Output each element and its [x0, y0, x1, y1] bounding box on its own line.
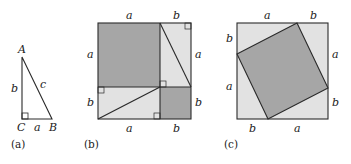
right-angle-marker — [22, 113, 28, 119]
caption-b: (b) — [84, 138, 99, 150]
side-b-label: b — [11, 82, 18, 95]
caption-c: (c) — [224, 138, 238, 150]
side-a-label: a — [34, 121, 41, 134]
right-label-a: a — [195, 48, 202, 61]
bottom-label-b: b — [249, 122, 256, 135]
top-label-b: b — [173, 9, 180, 22]
side-c-label: c — [40, 78, 46, 91]
panel-b: a b a b a b a b (b) — [84, 9, 202, 150]
bottom-label-a: a — [126, 122, 133, 135]
right-label-b: b — [195, 96, 202, 109]
left-label-b: b — [87, 96, 94, 109]
right-triangle — [22, 57, 52, 119]
right-label-b: b — [332, 96, 339, 109]
top-label-a: a — [264, 9, 271, 22]
caption-a: (a) — [11, 138, 25, 150]
vertex-b-label: B — [48, 121, 57, 134]
square-a-squared — [98, 23, 160, 87]
bottom-label-a: a — [294, 122, 301, 135]
right-label-a: a — [332, 48, 339, 61]
left-label-b: b — [226, 32, 233, 45]
square-b-squared — [160, 87, 191, 119]
panel-a: A b c C a B (a) — [11, 43, 57, 150]
left-label-a: a — [87, 48, 94, 61]
panel-c: a b b a a b b a (c) — [224, 9, 339, 150]
left-label-a: a — [226, 80, 233, 93]
vertex-a-label: A — [17, 43, 26, 56]
pythagorean-proof-diagram: A b c C a B (a) a b a b a b a b (b) — [0, 0, 351, 164]
top-label-a: a — [126, 9, 133, 22]
bottom-label-b: b — [173, 122, 180, 135]
top-label-b: b — [310, 9, 317, 22]
vertex-c-label: C — [17, 121, 26, 134]
